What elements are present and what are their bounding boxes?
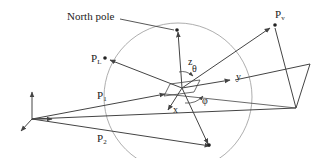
label-theta: θ [192,63,197,74]
origin-axes [21,92,52,131]
north-pole-leader [120,19,174,30]
label-phi: φ [202,95,208,106]
label-pv: Pv [275,8,285,22]
sphere-circle [104,23,252,158]
pl-point [103,56,107,60]
vector-p2 [32,119,210,146]
spherical-geometry-diagram: North pole PL Pv P1 P2 z θ y x φ [0,0,327,158]
label-p1: P1 [97,89,107,103]
label-x: x [173,104,178,115]
label-p2: P2 [97,132,107,146]
label-pl: PL [91,52,101,66]
pv-point [273,23,277,27]
label-y: y [236,71,241,82]
p2-end-point [207,143,211,147]
label-north-pole: North pole [67,10,114,22]
north-pole-point [175,28,179,32]
